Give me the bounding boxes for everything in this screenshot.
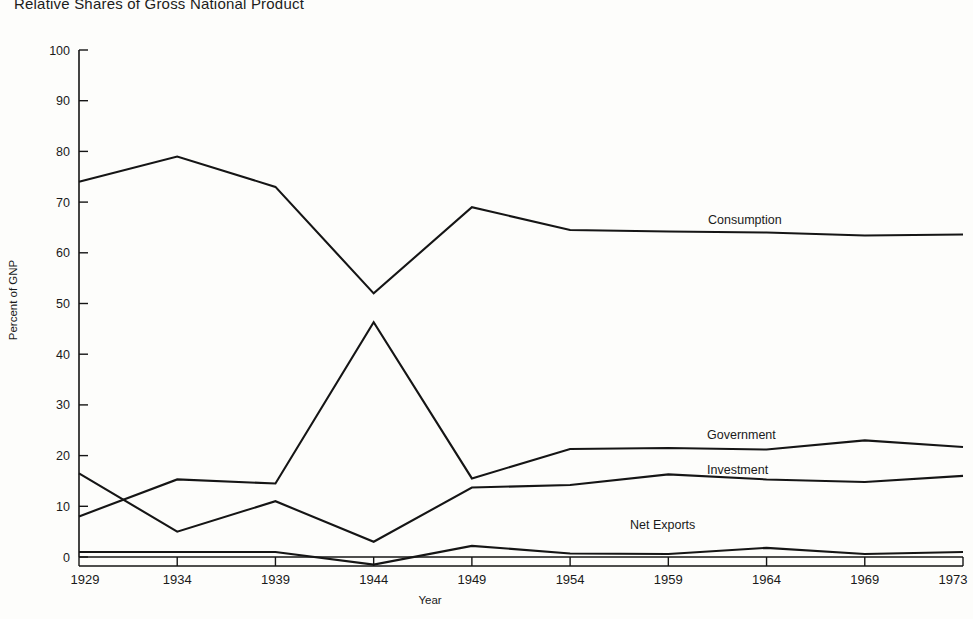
- y-tick-label: 70: [56, 196, 70, 210]
- x-tick-label: 1954: [556, 572, 585, 587]
- x-axis-title: Year: [418, 594, 441, 606]
- y-tick-label: 60: [56, 246, 70, 260]
- x-tick-label: 1973: [939, 572, 968, 587]
- y-tick-label: 90: [56, 94, 70, 108]
- y-axis-title: Percent of GNP: [7, 259, 19, 340]
- x-axis: 1929193419391944194919541959196419691973…: [71, 557, 968, 606]
- y-tick-label: 80: [56, 145, 70, 159]
- x-tick-label: 1959: [654, 572, 683, 587]
- series-label-investment: Investment: [707, 463, 769, 477]
- series-label-consumption: Consumption: [708, 213, 782, 227]
- y-tick-label: 100: [49, 44, 70, 58]
- x-tick-label: 1929: [71, 572, 100, 587]
- line-chart-plot: 0102030405060708090100 Percent of GNP 19…: [0, 0, 973, 619]
- y-tick-label: 10: [56, 500, 70, 514]
- series-line-consumption: [79, 156, 963, 293]
- series-line-investment: [79, 473, 963, 541]
- series-lines-group: [79, 156, 963, 564]
- y-tick-label: 0: [63, 551, 70, 565]
- x-tick-label: 1949: [457, 572, 486, 587]
- y-tick-label: 20: [56, 449, 70, 463]
- y-tick-group: 0102030405060708090100: [49, 44, 88, 565]
- x-tick-label: 1934: [163, 572, 192, 587]
- x-tick-label: 1969: [850, 572, 879, 587]
- chart-container: Relative Shares of Gross National Produc…: [0, 0, 973, 619]
- y-tick-label: 40: [56, 348, 70, 362]
- series-line-net-exports: [79, 546, 963, 565]
- series-labels-group: ConsumptionGovernmentInvestmentNet Expor…: [630, 213, 782, 532]
- x-tick-group: 1929193419391944194919541959196419691973: [71, 557, 968, 587]
- y-tick-label: 50: [56, 297, 70, 311]
- x-tick-label: 1964: [752, 572, 781, 587]
- y-axis: 0102030405060708090100 Percent of GNP: [7, 44, 88, 565]
- series-label-government: Government: [707, 428, 776, 442]
- y-tick-label: 30: [56, 398, 70, 412]
- x-tick-label: 1944: [359, 572, 388, 587]
- series-label-net-exports: Net Exports: [630, 518, 695, 532]
- x-tick-label: 1939: [261, 572, 290, 587]
